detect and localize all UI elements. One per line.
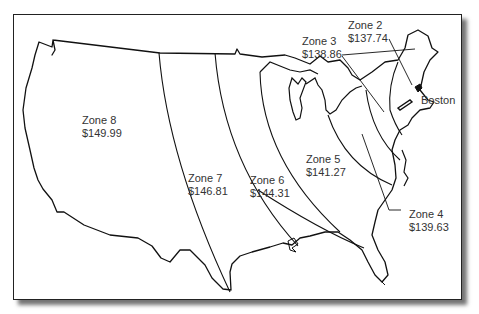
zone-name: Zone 3	[302, 35, 342, 48]
zone-name: Zone 8	[82, 114, 122, 127]
leader-zone-3a	[342, 49, 415, 55]
chesapeake-bay	[402, 150, 408, 186]
zone-4-label: Zone 4 $139.63	[409, 208, 449, 234]
zone-name: Zone 2	[348, 19, 388, 32]
zone-price: $141.27	[306, 166, 346, 179]
zone-8-label: Zone 8 $149.99	[82, 114, 122, 140]
zone-name: Zone 7	[188, 172, 228, 185]
lake-michigan-east	[306, 78, 362, 114]
zone-name: Zone 6	[250, 174, 290, 187]
zone-price: $138.86	[302, 48, 342, 61]
long-island	[398, 100, 412, 110]
zone-name: Zone 4	[409, 208, 449, 221]
zone-6-label: Zone 6 $144.31	[250, 174, 290, 200]
zone-name: Zone 5	[306, 153, 346, 166]
zone-boundary-6-7	[215, 53, 298, 246]
us-zone-map	[0, 0, 479, 314]
zone-price: $144.31	[250, 187, 290, 200]
zone-2-label: Zone 2 $137.74	[348, 19, 388, 45]
zone-price: $137.74	[348, 32, 388, 45]
zone-boundary-2-3	[390, 62, 402, 135]
zone-5-label: Zone 5 $141.27	[306, 153, 346, 179]
boston-label: Boston	[421, 94, 455, 107]
lake-michigan	[289, 78, 306, 120]
zone-price: $146.81	[188, 185, 228, 198]
zone-boundary-3-4	[366, 90, 400, 160]
us-outline	[23, 30, 438, 290]
zone-7-label: Zone 7 $146.81	[188, 172, 228, 198]
florida-keys	[382, 282, 385, 285]
zone-boundary-5-6	[260, 72, 340, 232]
zone-price: $149.99	[82, 127, 122, 140]
zone-3-label: Zone 3 $138.86	[302, 35, 342, 61]
zone-price: $139.63	[409, 221, 449, 234]
leader-zone-3b	[342, 56, 384, 112]
